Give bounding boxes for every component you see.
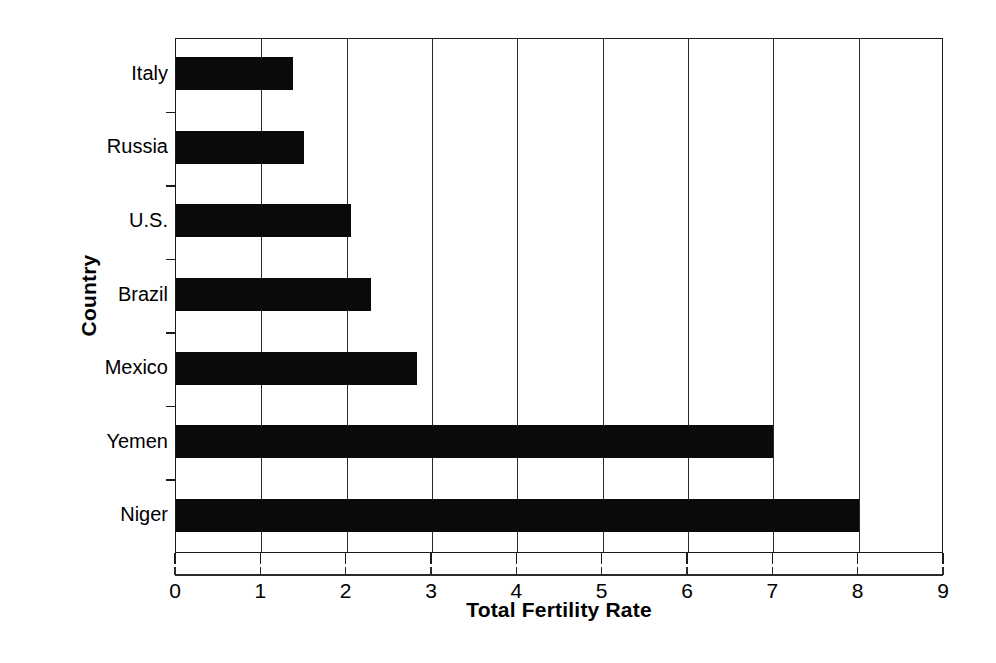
x-axis-tick-stub-5 (601, 567, 603, 575)
y-axis-label-1: Russia (78, 136, 168, 156)
y-axis-category-labels: Italy Russia U.S. Brazil Mexico Yemen Ni… (78, 38, 168, 553)
x-axis-tick-0 (174, 553, 176, 564)
y-axis-label-5: Yemen (78, 431, 168, 451)
gridline-5 (603, 39, 604, 552)
x-axis-tick-6 (686, 553, 688, 564)
x-axis-tick-7 (772, 553, 774, 564)
bar-chart: Country Italy Russia U.S. Brazil Mexico … (0, 0, 996, 663)
x-axis-line (175, 574, 943, 576)
x-axis-tick-9 (942, 553, 944, 564)
x-axis-tick-3 (430, 553, 432, 564)
x-axis-tick-4 (516, 553, 518, 564)
gridline-7 (773, 39, 774, 552)
gridline-8 (859, 39, 860, 552)
x-axis-tick-stub-7 (772, 567, 774, 575)
x-axis-tick-stub-1 (260, 567, 262, 575)
bar-brazil (176, 278, 371, 311)
x-axis-tick-5 (601, 553, 603, 564)
x-axis-title: Total Fertility Rate (175, 598, 943, 622)
y-axis-label-2: U.S. (78, 210, 168, 230)
x-axis-tick-8 (857, 553, 859, 564)
y-axis-label-6: Niger (78, 504, 168, 524)
x-axis-tick-stub-3 (430, 567, 432, 575)
bar-italy (176, 57, 293, 90)
gridline-3 (432, 39, 433, 552)
x-axis-tick-1 (260, 553, 262, 564)
bar-russia (176, 131, 304, 164)
x-axis-tick-stub-2 (345, 567, 347, 575)
bar-niger (176, 499, 859, 532)
bar-u-s (176, 204, 351, 237)
x-axis-tick-2 (345, 553, 347, 564)
x-axis-tick-stub-9 (942, 567, 944, 575)
x-axis-tick-stub-8 (857, 567, 859, 575)
y-axis-label-4: Mexico (78, 357, 168, 377)
gridline-6 (688, 39, 689, 552)
plot-area (175, 38, 943, 553)
x-axis-tick-stub-6 (686, 567, 688, 575)
bar-mexico (176, 352, 417, 385)
x-axis-tick-stub-0 (174, 567, 176, 575)
gridline-4 (517, 39, 518, 552)
y-axis-label-0: Italy (78, 63, 168, 83)
y-axis-label-3: Brazil (78, 284, 168, 304)
x-axis-tick-stub-4 (516, 567, 518, 575)
bar-yemen (176, 425, 773, 458)
